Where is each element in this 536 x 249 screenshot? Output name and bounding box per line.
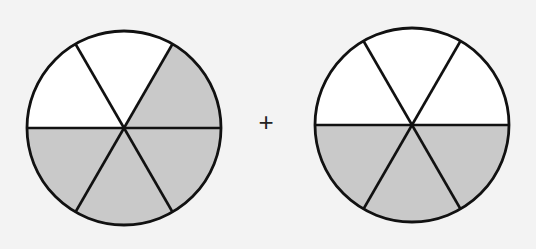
plus-sign: + (258, 107, 273, 137)
fraction-diagram: + (0, 0, 536, 249)
right-fraction-circle (315, 28, 509, 222)
left-fraction-circle (27, 31, 221, 225)
